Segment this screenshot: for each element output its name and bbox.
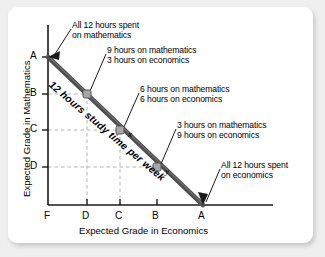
marker-label-y: y xyxy=(165,166,169,176)
leader-bottom-right xyxy=(206,169,220,202)
x-tick-label-b: B xyxy=(152,210,159,221)
leader-top-left xyxy=(55,29,71,54)
figure-root: 12 hours study time per week All 12 hour… xyxy=(0,0,325,257)
leader-point-x xyxy=(124,93,139,127)
x-tick-label-a: A xyxy=(198,210,205,221)
y-axis-title: Expected Grade in Mathematics xyxy=(22,60,33,197)
leader-point-b xyxy=(90,54,106,91)
x-tick-label-d: D xyxy=(82,210,89,221)
marker-label-x: x xyxy=(128,129,132,139)
chart-canvas xyxy=(8,7,313,243)
x-tick-label-c: C xyxy=(115,210,122,221)
figure-card: 12 hours study time per week All 12 hour… xyxy=(8,7,313,243)
annotation-all-hours-econ-line2: on economics xyxy=(221,171,273,181)
marker-point-b xyxy=(83,90,91,98)
annotation-point-b-line2: 3 hours on economics xyxy=(107,56,189,66)
x-axis-title: Expected Grade in Economics xyxy=(79,226,208,237)
annotation-all-hours-math-line2: on mathematics xyxy=(72,31,131,41)
x-tick-label-f: F xyxy=(44,210,50,221)
annotation-point-y-line2: 9 hours on economics xyxy=(177,131,259,141)
annotation-point-x-line2: 6 hours on economics xyxy=(140,95,222,105)
leader-point-y xyxy=(161,129,176,164)
